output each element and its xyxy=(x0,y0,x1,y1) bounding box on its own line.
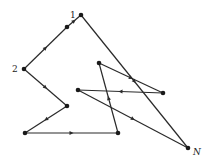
node-label-1: 1 xyxy=(70,10,76,20)
arrow-icon xyxy=(119,90,123,94)
path-diagram: 1 2 N xyxy=(0,0,215,165)
arrow-icon xyxy=(70,131,74,135)
node-f xyxy=(161,91,166,96)
node-label-2: 2 xyxy=(12,64,18,74)
node-c xyxy=(23,131,28,136)
node-g xyxy=(76,88,81,93)
edges xyxy=(24,15,188,148)
node-a xyxy=(65,25,70,30)
node-e xyxy=(97,61,102,66)
node-2 xyxy=(22,67,27,72)
node-1 xyxy=(79,13,84,18)
node-label-n: N xyxy=(192,147,202,157)
node-b xyxy=(65,104,70,109)
nodes xyxy=(22,13,191,151)
node-d xyxy=(116,131,121,136)
node-N xyxy=(186,146,191,151)
